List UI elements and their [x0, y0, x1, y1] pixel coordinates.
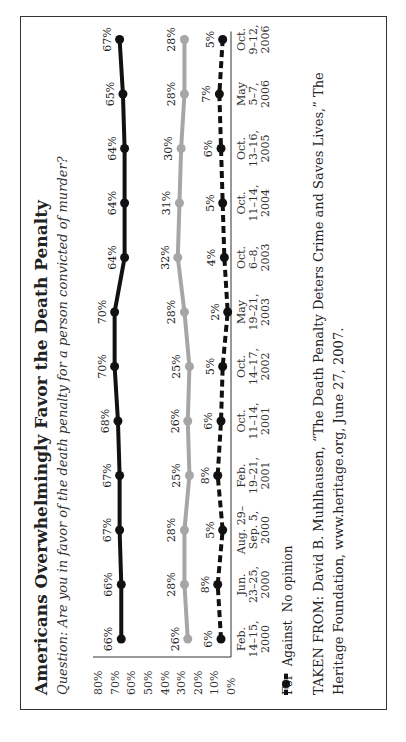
- x-tick-label: 2002: [259, 353, 272, 381]
- data-label: 66%: [102, 627, 115, 651]
- data-label: 28%: [165, 82, 178, 106]
- data-label: 32%: [159, 245, 172, 269]
- data-point: [177, 144, 186, 153]
- x-tick-label: 2000: [259, 516, 272, 544]
- data-label: 26%: [169, 627, 182, 651]
- data-point: [217, 417, 226, 426]
- data-point: [180, 90, 189, 99]
- data-point: [117, 635, 126, 644]
- data-point: [185, 362, 194, 371]
- x-tick-label: 2006: [259, 26, 272, 54]
- x-tick-label: 2003: [259, 298, 272, 326]
- data-point: [213, 471, 222, 480]
- y-tick-label: 50%: [142, 671, 155, 695]
- y-tick-label: 20%: [192, 671, 205, 695]
- data-point: [180, 526, 189, 535]
- data-label: 8%: [199, 467, 212, 484]
- series-line-for: [115, 40, 125, 640]
- data-point: [117, 580, 126, 589]
- data-point: [218, 526, 227, 535]
- data-point: [120, 199, 129, 208]
- data-label: 28%: [165, 572, 178, 596]
- legend-item-no-opinion: No opinion: [281, 545, 295, 612]
- data-point: [218, 199, 227, 208]
- data-point: [218, 362, 227, 371]
- data-point: [213, 580, 222, 589]
- x-tick-label: 2001: [259, 407, 272, 435]
- series-line-against: [178, 40, 190, 640]
- data-point: [180, 35, 189, 44]
- data-point: [115, 526, 124, 535]
- data-label: 64%: [106, 136, 119, 160]
- x-tick-label: 2000: [259, 625, 272, 653]
- data-point: [215, 90, 224, 99]
- data-label: 70%: [96, 354, 109, 378]
- data-point: [110, 308, 119, 317]
- data-label: 28%: [165, 518, 178, 542]
- x-tick-label: 2004: [259, 189, 272, 217]
- source-citation: TAKEN FROM: David B. Muhlhausen, “The De…: [309, 35, 349, 695]
- data-label: 67%: [101, 27, 114, 51]
- data-label: 64%: [106, 191, 119, 215]
- x-tick-label: 2006: [259, 80, 272, 108]
- no-opinion-line-icon: [281, 673, 291, 695]
- data-point: [183, 417, 192, 426]
- data-label: 28%: [165, 27, 178, 51]
- data-label: 30%: [162, 136, 175, 160]
- x-tick-label: 2005: [259, 135, 272, 163]
- y-tick-label: 80%: [92, 671, 105, 695]
- data-point: [120, 144, 129, 153]
- data-label: 26%: [169, 409, 182, 433]
- data-point: [115, 471, 124, 480]
- y-tick-label: 10%: [208, 671, 221, 695]
- legend-item-against: Against: [281, 620, 295, 666]
- data-label: 5%: [204, 31, 217, 48]
- data-label: 66%: [102, 572, 115, 596]
- data-label: 31%: [160, 191, 173, 215]
- data-point: [173, 253, 182, 262]
- legend: For Against No opinion: [281, 545, 295, 695]
- data-label: 5%: [204, 194, 217, 211]
- data-point: [110, 362, 119, 371]
- data-label: 2%: [209, 303, 222, 320]
- data-label: 4%: [205, 249, 218, 266]
- data-label: 67%: [101, 463, 114, 487]
- data-point: [183, 635, 192, 644]
- data-label: 70%: [96, 300, 109, 324]
- data-label: 64%: [106, 245, 119, 269]
- data-label: 65%: [104, 82, 117, 106]
- x-tick-label: 2000: [259, 571, 272, 599]
- data-point: [217, 635, 226, 644]
- data-label: 6%: [202, 140, 215, 157]
- chart-frame: Americans Overwhelmingly Favor the Death…: [20, 16, 387, 710]
- data-label: 6%: [202, 412, 215, 429]
- data-point: [175, 199, 184, 208]
- x-tick-label: 2003: [259, 244, 272, 272]
- series-line-no-opinion: [218, 40, 228, 640]
- data-label: 68%: [99, 409, 112, 433]
- data-point: [115, 35, 124, 44]
- data-point: [218, 35, 227, 44]
- data-label: 25%: [170, 354, 183, 378]
- data-label: 5%: [204, 358, 217, 375]
- y-tick-label: 30%: [175, 671, 188, 695]
- data-label: 8%: [199, 576, 212, 593]
- data-point: [220, 253, 229, 262]
- data-point: [223, 308, 232, 317]
- data-point: [217, 144, 226, 153]
- data-point: [185, 471, 194, 480]
- data-label: 67%: [101, 518, 114, 542]
- data-label: 25%: [170, 463, 183, 487]
- data-label: 7%: [200, 85, 213, 102]
- data-label: 28%: [165, 300, 178, 324]
- data-label: 5%: [204, 521, 217, 538]
- y-tick-label: 0%: [225, 678, 238, 695]
- line-plot: 80%70%60%50%40%30%20%10%0%Feb.14–15,2000…: [21, 15, 281, 709]
- data-point: [180, 580, 189, 589]
- y-tick-label: 40%: [159, 671, 172, 695]
- y-tick-label: 60%: [125, 671, 138, 695]
- data-label: 6%: [202, 630, 215, 647]
- y-tick-label: 70%: [109, 671, 122, 695]
- x-tick-label: 2001: [259, 462, 272, 490]
- data-point: [113, 417, 122, 426]
